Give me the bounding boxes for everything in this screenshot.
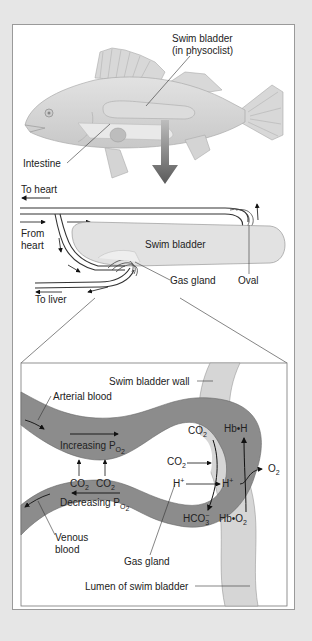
label-gas-gland-rete: Gas gland	[170, 275, 216, 286]
label-swim-bladder-physoclist-2: (in physoclist)	[172, 45, 233, 56]
label-to-heart: To heart	[21, 184, 57, 195]
label-oval: Oval	[238, 275, 259, 286]
label-gas-gland-detail: Gas gland	[124, 556, 170, 567]
label-venous-blood: Venous	[55, 532, 88, 543]
label-arterial-blood: Arterial blood	[53, 391, 112, 402]
label-swim-bladder-wall: Swim bladder wall	[109, 376, 190, 387]
label-hb-h: Hb•H	[224, 423, 248, 434]
label-hco3: HCO3−	[183, 512, 209, 526]
label-intestine: Intestine	[23, 158, 61, 169]
label-from-heart-2: heart	[21, 240, 44, 251]
label-swim-bladder: Swim bladder	[145, 239, 206, 250]
diagram-canvas: Swim bladder (in physoclist) Intestine T…	[0, 0, 312, 641]
label-to-liver: To liver	[35, 294, 67, 305]
label-from-heart: From	[21, 228, 44, 239]
label-swim-bladder-physoclist: Swim bladder	[172, 33, 233, 44]
fish-illustration	[25, 48, 283, 178]
label-lumen: Lumen of swim bladder	[85, 581, 189, 592]
label-venous-blood-2: blood	[55, 544, 79, 555]
